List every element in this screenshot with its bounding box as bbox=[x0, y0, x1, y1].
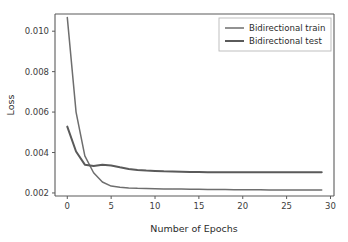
x-tick-label: 5 bbox=[108, 201, 113, 211]
y-tick-label: 0.010 bbox=[25, 26, 49, 36]
legend-label-test: Bidirectional test bbox=[249, 36, 322, 46]
x-tick-label: 15 bbox=[193, 201, 204, 211]
legend-label-train: Bidirectional train bbox=[249, 23, 325, 33]
x-tick-label: 0 bbox=[65, 201, 70, 211]
x-tick-label: 10 bbox=[150, 201, 161, 211]
loss-line-chart: 0.0020.0040.0060.0080.010 051015202530 N… bbox=[0, 0, 348, 242]
y-tick-label: 0.006 bbox=[25, 107, 49, 117]
y-axis-title: Loss bbox=[5, 95, 16, 116]
y-axis-tick-labels: 0.0020.0040.0060.0080.010 bbox=[25, 26, 49, 198]
y-tick-label: 0.004 bbox=[25, 148, 49, 158]
x-tick-label: 20 bbox=[237, 201, 248, 211]
chart-legend[interactable]: Bidirectional train Bidirectional test bbox=[219, 18, 331, 51]
y-tick-label: 0.002 bbox=[25, 188, 49, 198]
x-axis-title: Number of Epochs bbox=[150, 223, 237, 234]
x-tick-label: 25 bbox=[281, 201, 292, 211]
x-axis-tick-labels: 051015202530 bbox=[65, 201, 336, 211]
x-tick-label: 30 bbox=[325, 201, 336, 211]
y-tick-label: 0.008 bbox=[25, 67, 49, 77]
chart-figure: 0.0020.0040.0060.0080.010 051015202530 N… bbox=[0, 0, 348, 242]
